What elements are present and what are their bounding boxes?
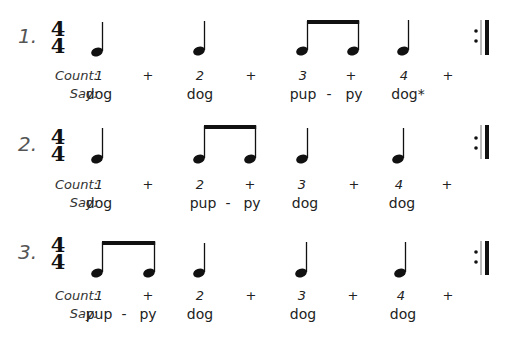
count-beat: 4 xyxy=(394,68,414,83)
notation-staff xyxy=(0,216,509,286)
exercise-1: 1. 4 4 Count: Say: 1 + 2 + 3 + 4 + dog d xyxy=(0,0,509,110)
count-beat: + xyxy=(341,68,361,83)
say-syllable: dog xyxy=(383,306,423,322)
say-syllable: dog xyxy=(79,195,119,211)
count-beat: 1 xyxy=(89,288,109,303)
quarter-note-icon xyxy=(295,128,309,165)
eighth-note-pair-icon xyxy=(192,125,257,165)
eighth-note-pair-icon xyxy=(295,20,360,57)
say-syllable: dog xyxy=(180,86,220,102)
count-beat: 3 xyxy=(292,288,312,303)
quarter-note-icon xyxy=(192,21,206,57)
say-syllable: dog xyxy=(382,195,422,211)
quarter-note-icon xyxy=(294,242,308,279)
count-beat: 4 xyxy=(389,177,409,192)
count-beat: + xyxy=(138,177,158,192)
count-beat: 3 xyxy=(292,177,312,192)
count-beat: 1 xyxy=(89,68,109,83)
say-syllable: dog* xyxy=(388,86,428,102)
end-repeat-icon xyxy=(474,125,489,159)
exercise-2: 2. 4 4 Count: Say: 1 + 2 + 3 + 4 + dog p… xyxy=(0,108,509,218)
notation-staff xyxy=(0,0,509,70)
quarter-note-icon xyxy=(393,242,407,279)
end-repeat-icon xyxy=(474,20,489,55)
count-beat: + xyxy=(138,68,158,83)
end-repeat-icon xyxy=(474,241,489,275)
quarter-note-icon xyxy=(391,128,405,165)
say-syllable: dog xyxy=(79,86,119,102)
say-syllable: dog xyxy=(180,306,220,322)
say-syllable: py xyxy=(232,195,272,211)
quarter-note-icon xyxy=(90,22,104,58)
count-beat: + xyxy=(438,288,458,303)
count-beat: 1 xyxy=(89,177,109,192)
count-beat: + xyxy=(343,288,363,303)
say-syllable: py xyxy=(334,86,374,102)
count-beat: 2 xyxy=(190,288,210,303)
count-beat: + xyxy=(437,177,457,192)
notation-staff xyxy=(0,108,509,178)
eighth-note-pair-icon xyxy=(90,241,156,279)
count-beat: + xyxy=(240,177,260,192)
exercise-3: 3. 4 4 Count: Say: 1 + 2 + 3 + 4 + pup -… xyxy=(0,216,509,326)
say-syllable: dog xyxy=(283,306,323,322)
quarter-note-icon xyxy=(396,20,410,57)
count-beat: + xyxy=(438,68,458,83)
quarter-note-icon xyxy=(90,128,104,165)
count-beat: + xyxy=(138,288,158,303)
count-beat: + xyxy=(344,177,364,192)
quarter-note-icon xyxy=(192,243,206,279)
count-beat: 2 xyxy=(190,68,210,83)
say-syllable: py xyxy=(128,306,168,322)
count-beat: 2 xyxy=(190,177,210,192)
count-beat: 4 xyxy=(391,288,411,303)
say-syllable: dog xyxy=(285,195,325,211)
count-beat: 3 xyxy=(293,68,313,83)
count-beat: + xyxy=(241,288,261,303)
count-beat: + xyxy=(241,68,261,83)
